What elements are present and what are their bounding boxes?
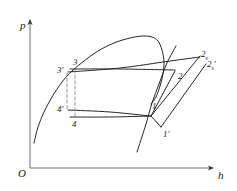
point-label-prime: ′ <box>62 104 64 114</box>
point-label-base: 2 <box>178 71 183 81</box>
point-label-1prime: 1′ <box>163 130 169 139</box>
curve-throttle-1-to-1prime <box>151 116 161 127</box>
point-label-3: 3 <box>73 58 78 67</box>
y-axis-label: p <box>20 20 26 31</box>
point-label-base: 3 <box>73 57 78 67</box>
point-label-base: 1 <box>152 101 157 111</box>
point-label-4prime: 4′ <box>57 105 63 114</box>
point-label-prime: ′ <box>214 59 216 69</box>
ph-diagram-svg <box>0 0 237 191</box>
origin-label: O <box>18 168 26 179</box>
figure-canvas: p h O 3′34′411′22s2s′ <box>0 0 237 191</box>
curve-line-4prime-to-1 <box>68 110 150 116</box>
point-label-3prime: 3′ <box>57 66 63 75</box>
curve-saturation-dome <box>34 36 164 143</box>
point-label-prime: ′ <box>168 129 170 139</box>
point-label-2sprime: 2s′ <box>207 60 216 71</box>
curve-isentrope-through-1 <box>137 46 176 152</box>
point-label-base: 4 <box>72 119 77 129</box>
curve-group <box>34 36 206 152</box>
point-label-4: 4 <box>72 120 77 129</box>
point-label-prime: ′ <box>62 65 64 75</box>
point-label-1: 1 <box>152 102 157 111</box>
point-label-2: 2 <box>178 72 183 81</box>
curve-line-4-to-1 <box>70 116 151 117</box>
curve-line-3-to-2 <box>70 69 175 70</box>
x-axis-label: h <box>218 170 224 181</box>
curve-line-3prime-to-2s <box>68 57 200 72</box>
